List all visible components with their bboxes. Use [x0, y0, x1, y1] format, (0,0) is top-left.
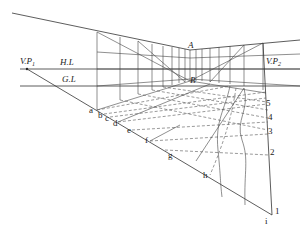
horizon-line-label: H.L	[59, 57, 74, 67]
svg-text:5: 5	[266, 98, 271, 108]
svg-text:d: d	[113, 118, 118, 128]
svg-text:3: 3	[268, 126, 273, 136]
svg-text:a: a	[89, 105, 93, 115]
left-wall-top-line	[12, 13, 190, 50]
vp1-diagonal	[27, 69, 272, 215]
svg-text:g: g	[168, 150, 173, 160]
right-wall-top-line	[190, 40, 300, 50]
svg-text:1: 1	[275, 206, 280, 216]
svg-text:i: i	[265, 216, 268, 225]
vp2-label: V.P2	[266, 56, 281, 67]
right-edge-number-labels: 1 2 3 4 5	[266, 98, 280, 216]
svg-text:b: b	[98, 110, 103, 120]
vp1-label: V.P1	[20, 56, 35, 67]
svg-text:e: e	[127, 125, 131, 135]
svg-text:f: f	[145, 135, 148, 145]
svg-text:h: h	[203, 170, 208, 180]
corner-b-label: B	[190, 75, 196, 85]
perspective-diagram: V.P1 H.L G.L V.P2 A B a b c d e f g h i …	[0, 0, 305, 225]
ground-point-labels: a b c d e f g h i	[89, 105, 268, 225]
corner-a-label: A	[187, 40, 194, 50]
ground-line-label: G.L	[62, 74, 76, 84]
svg-text:4: 4	[268, 112, 273, 122]
svg-text:c: c	[105, 113, 109, 123]
svg-text:2: 2	[270, 147, 275, 157]
